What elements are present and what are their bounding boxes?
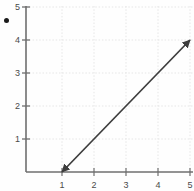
chart-container: 1 2 3 4 5 1 2 3 4 5 — [0, 0, 194, 191]
y-tick-label-3: 3 — [15, 68, 20, 78]
x-tick-label-1: 1 — [59, 180, 64, 190]
y-tick-label-1: 1 — [15, 134, 20, 144]
x-tick-label-2: 2 — [91, 180, 96, 190]
x-tick-label-5: 5 — [187, 180, 192, 190]
y-tick-label-2: 2 — [15, 101, 20, 111]
y-tick-label-5: 5 — [15, 2, 20, 12]
grid-horizontal — [26, 7, 193, 139]
grid-vertical — [62, 6, 190, 172]
y-tick-label-4: 4 — [15, 35, 20, 45]
x-tick-label-3: 3 — [123, 180, 128, 190]
line-chart: 1 2 3 4 5 1 2 3 4 5 — [0, 0, 194, 191]
x-tick-label-4: 4 — [155, 180, 160, 190]
